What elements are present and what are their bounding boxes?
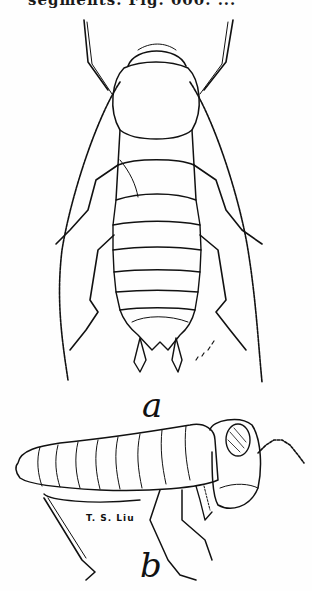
figure-b-lateral-drawing: [0, 0, 312, 591]
artist-signature: T. S. Liu: [86, 513, 135, 523]
panel-label-b: b: [140, 548, 162, 582]
book-page: segments. Fig. 000. ...: [0, 0, 312, 591]
